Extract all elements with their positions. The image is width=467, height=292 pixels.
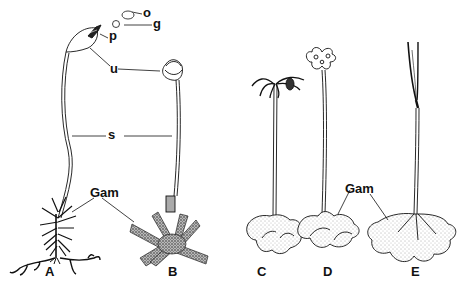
label-gametophyte-right: Gam [345,182,374,195]
panel-label-b: B [168,265,177,278]
oval-structure-o [122,11,134,19]
leader-lines [72,11,388,222]
label-s: s [108,128,115,141]
panel-label-a: A [45,265,54,278]
label-g: g [153,17,161,30]
panel-label-d: D [323,265,332,278]
label-o: o [143,6,151,19]
label-p: p [109,29,117,42]
panel-a-plant [10,25,101,275]
panel-d-plant [298,48,359,248]
panel-b-plant [130,60,208,266]
panel-c-plant [247,77,304,253]
panel-label-c: C [257,265,266,278]
botanical-figure [0,0,467,292]
panel-e-plant [368,42,456,262]
label-gametophyte-left: Gam [90,186,119,199]
panel-label-e: E [411,265,420,278]
circle-structure-g [113,21,120,28]
label-u: u [110,62,118,75]
